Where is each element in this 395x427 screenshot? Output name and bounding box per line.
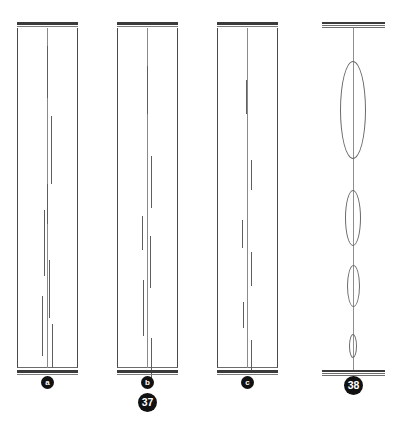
figure-38-lens — [345, 190, 361, 246]
panel-a-label-text: a — [45, 379, 49, 387]
panel-c-tick — [242, 220, 243, 248]
panel-b-tick — [150, 236, 151, 288]
panel-b-bottom-bar — [117, 370, 178, 373]
figure-37-number: 37 — [138, 393, 157, 412]
panel-b-tick — [143, 280, 144, 336]
panel-c-tick — [243, 302, 244, 328]
figure-37-number-text: 37 — [142, 397, 154, 408]
panel-b-tick — [142, 216, 143, 250]
figure-38-number: 38 — [344, 376, 363, 395]
panel-c-bottom-bar — [217, 370, 278, 373]
figure-plate: a b 37 c — [0, 0, 395, 427]
panel-a-bottom-bar — [17, 370, 78, 373]
panel-c-tick — [251, 252, 252, 286]
panel-b-tick — [147, 66, 148, 114]
panel-a-top-bar — [17, 22, 78, 25]
panel-a-tick — [51, 116, 52, 184]
figure-38-top-bar — [322, 22, 385, 24]
panel-c-bottom-bar-underline — [217, 374, 278, 375]
figure-38-bottom-bar — [322, 370, 385, 372]
panel-a-tick — [52, 324, 53, 368]
figure-38-lens — [347, 265, 360, 307]
panel-a-top-bar-underline — [17, 26, 78, 27]
panel-b-bottom-bar-underline — [117, 374, 178, 375]
panel-a-tick — [47, 184, 48, 224]
panel-b-top-bar — [117, 22, 178, 25]
panel-b-label: b — [141, 376, 154, 389]
panel-c-tick — [251, 340, 252, 370]
panel-a-tick — [49, 260, 50, 318]
figure-38-lens — [349, 334, 357, 358]
figure-38-top-bar-underline — [322, 25, 385, 26]
panel-c-centerline — [247, 28, 248, 368]
panel-c-label-text: c — [245, 379, 249, 387]
panel-a-tick — [47, 46, 48, 98]
panel-b-label-text: b — [145, 379, 150, 387]
panel-b-top-bar-underline — [117, 26, 178, 27]
panel-a-tick — [44, 210, 45, 276]
figure-38-number-text: 38 — [348, 380, 360, 391]
panel-a-tick — [42, 296, 43, 356]
figure-38-lens — [340, 61, 366, 159]
panel-c-top-bar — [217, 22, 278, 25]
panel-a-label: a — [41, 376, 54, 389]
figure-38-bottom-bar-underline — [322, 373, 385, 374]
panel-c-tick — [251, 160, 252, 190]
panel-b-tick — [151, 156, 152, 208]
panel-c-top-bar-underline — [217, 26, 278, 27]
panel-c-label: c — [241, 376, 254, 389]
panel-c-tick — [246, 80, 247, 114]
panel-a-bottom-bar-underline — [17, 374, 78, 375]
